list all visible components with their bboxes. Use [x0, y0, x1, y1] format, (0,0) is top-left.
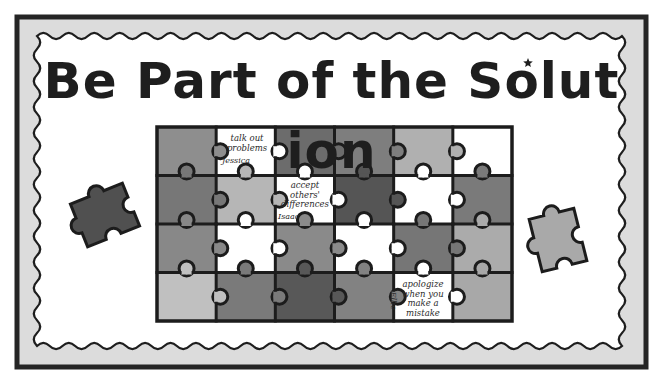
- note-author: Jessica: [222, 156, 250, 166]
- board-title: Be Part of the Solution: [40, 46, 623, 186]
- note-accept-differences: accept others' differences Isaac: [274, 181, 336, 210]
- note-line: differences: [274, 200, 336, 210]
- note-line: problems: [218, 144, 276, 154]
- title-star-letter: i: [286, 116, 304, 186]
- note-author: Ellie: [388, 292, 398, 310]
- note-author: Isaac: [278, 212, 299, 222]
- title-text-part-2: on: [305, 122, 377, 180]
- puzzle-piece: [157, 273, 217, 322]
- note-line: mistake: [398, 309, 448, 319]
- note-apologize: apologize when you make a mistake Ellie: [398, 280, 448, 318]
- title-text-part-1: Be Part of the Solut: [44, 52, 620, 110]
- note-talk-out-problems: talk out problems Jessica: [218, 134, 276, 153]
